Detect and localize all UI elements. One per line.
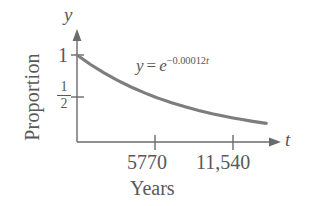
- x-axis: [77, 138, 281, 147]
- equation-exponent: −0.00012t: [167, 55, 209, 66]
- equation-lhs: y: [136, 56, 144, 75]
- y-axis-caption: Proportion: [22, 33, 42, 161]
- equation-operator: =: [144, 56, 160, 75]
- fraction-denominator: 2: [56, 96, 72, 111]
- x-tick-label-5770: 5770: [127, 152, 167, 172]
- curve-equation-annotation: y=e−0.00012t: [136, 56, 209, 74]
- exponential-decay-figure: y t Proportion 1 1 2 5770 11,540 Years y…: [0, 0, 312, 206]
- equation-exponent-variable: t: [206, 55, 209, 66]
- y-tick-label-1: 1: [58, 45, 68, 65]
- fraction-numerator: 1: [56, 80, 72, 95]
- equation-base: e: [159, 56, 167, 75]
- x-axis-caption: Years: [130, 178, 175, 198]
- x-axis-variable-label: t: [285, 130, 290, 149]
- y-axis-variable-label: y: [64, 5, 72, 24]
- plot-area: [0, 0, 312, 206]
- x-tick-label-11540: 11,540: [196, 152, 250, 172]
- equation-exponent-value: −0.00012: [167, 55, 206, 66]
- y-axis: [73, 29, 82, 142]
- y-tick-label-one-half: 1 2: [56, 80, 72, 111]
